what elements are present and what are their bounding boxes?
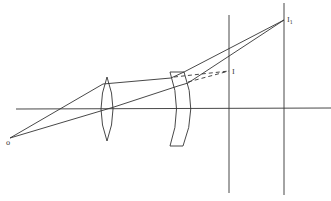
- object-label: o: [6, 139, 10, 147]
- ray-upper: [10, 20, 284, 138]
- virtual-ray-2: [188, 71, 229, 82]
- intermediate-image-label: I: [232, 68, 235, 76]
- ray-lower: [10, 20, 284, 138]
- optics-diagram: o I I1: [0, 0, 331, 201]
- final-image-label: I1: [287, 16, 293, 25]
